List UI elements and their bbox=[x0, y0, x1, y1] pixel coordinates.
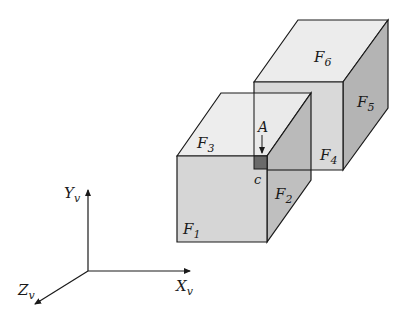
front-cube bbox=[177, 93, 311, 242]
label-point-a: A bbox=[256, 119, 268, 135]
label-x-axis: Xv bbox=[175, 277, 194, 298]
viewing-axes bbox=[35, 190, 190, 304]
z-axis bbox=[35, 271, 88, 304]
label-z-axis: Zv bbox=[17, 281, 35, 302]
cubes-diagram: F6 F5 F4 F3 F2 F1 A c Yv Xv Zv bbox=[0, 0, 405, 329]
pixel-square-c bbox=[254, 156, 267, 169]
label-pixel-c: c bbox=[254, 172, 262, 187]
label-y-axis: Yv bbox=[64, 184, 81, 205]
